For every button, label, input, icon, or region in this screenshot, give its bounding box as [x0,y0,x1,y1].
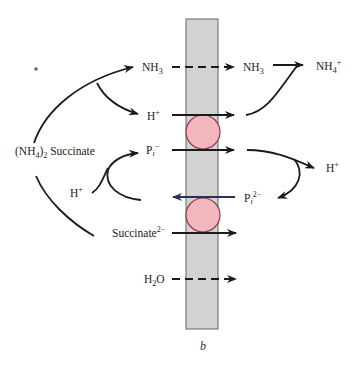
h-plus-branch-curve [97,83,138,114]
ammonium-succinate-label: (NH4)2 Succinate [15,145,95,160]
h-plus-proton-curve [92,168,108,193]
pi-minus-left-label: Pi− [146,142,160,158]
succinate-release-arc [36,176,94,236]
pi2-return-curve [278,159,300,198]
figure-caption: b [200,339,206,353]
diagram-svg: (NH4)2 Succinate NH3 H+ Pi− H+ Succinate… [0,0,355,365]
nh3-left-label: NH3 [142,61,163,76]
h2o-left-label: H2O [144,273,165,288]
pi2-right-label: Pi2− [244,190,262,206]
h-plus-right-label: H+ [326,160,339,174]
nh4-right-label: NH4+ [316,58,342,75]
pi-protonation-curve [107,153,141,200]
carrier-protein-lower [186,198,220,232]
membrane-transport-diagram: (NH4)2 Succinate NH3 H+ Pi− H+ Succinate… [0,0,355,365]
carrier-protein-upper [186,115,220,149]
succinate-left-label: Succinate2− [112,225,166,239]
h-plus-left-label: H+ [147,108,160,122]
h-plus-join-curve [246,66,297,115]
stray-dot [34,67,38,71]
h-plus-cytosol-label: H+ [70,185,83,199]
nh3-right-label: NH3 [243,61,264,76]
membrane-bar [186,19,218,329]
pi-dissociation-curve [247,150,314,168]
